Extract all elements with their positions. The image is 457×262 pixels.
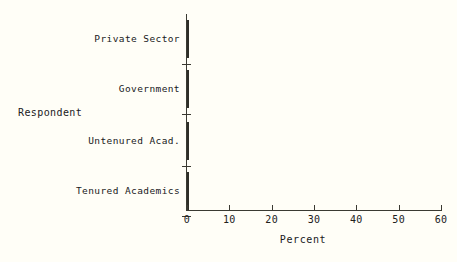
x-tick-label: 10 bbox=[223, 214, 236, 225]
bar-chart: 0102030405060 Private SectorGovernmentUn… bbox=[0, 0, 457, 262]
y-axis-title: Respondent bbox=[18, 107, 82, 118]
x-tick bbox=[229, 205, 230, 211]
x-tick-label: 50 bbox=[392, 214, 405, 225]
bar bbox=[187, 122, 365, 160]
x-tick bbox=[272, 205, 273, 211]
x-tick-label: 0 bbox=[184, 214, 190, 225]
bar bbox=[187, 172, 407, 210]
bar-fill bbox=[187, 70, 189, 108]
bar bbox=[187, 70, 339, 108]
x-tick bbox=[187, 205, 188, 211]
bar bbox=[187, 20, 301, 58]
bar-fill bbox=[187, 20, 189, 58]
x-tick bbox=[441, 205, 442, 211]
category-label: Untenured Acad. bbox=[88, 135, 180, 146]
x-axis-title: Percent bbox=[280, 234, 326, 245]
x-tick-label: 40 bbox=[350, 214, 363, 225]
x-tick-label: 30 bbox=[308, 214, 321, 225]
y-tick bbox=[182, 114, 191, 115]
category-label: Government bbox=[119, 83, 180, 94]
x-tick-label: 60 bbox=[435, 214, 448, 225]
category-label: Tenured Academics bbox=[76, 185, 180, 196]
x-tick bbox=[356, 205, 357, 211]
x-tick bbox=[314, 205, 315, 211]
category-label: Private Sector bbox=[94, 33, 180, 44]
y-tick bbox=[182, 166, 191, 167]
y-tick bbox=[182, 64, 191, 65]
x-tick bbox=[399, 205, 400, 211]
x-tick-label: 20 bbox=[265, 214, 278, 225]
bar-fill bbox=[187, 122, 189, 160]
